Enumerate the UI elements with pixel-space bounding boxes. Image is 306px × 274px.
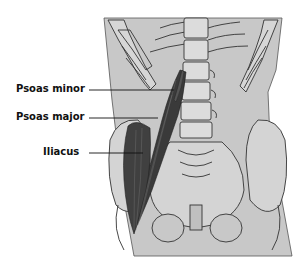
label-psoas-major: Psoas major [16,111,85,122]
label-iliacus: Iliacus [43,146,79,157]
label-psoas-minor: Psoas minor [16,83,85,94]
anatomy-illustration [0,0,306,274]
